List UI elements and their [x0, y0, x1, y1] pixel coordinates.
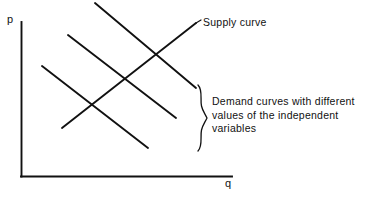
y-axis-label: p	[7, 13, 13, 25]
demand-curves-label: Demand curves with different values of t…	[212, 95, 355, 136]
x-axis-label: q	[225, 177, 231, 189]
demand-curves-label-line-1: Demand curves with different	[212, 95, 355, 109]
supply-curve-label: Supply curve	[203, 16, 267, 30]
demand-curve-line-2	[68, 35, 176, 118]
demand-curve-line-1	[95, 3, 196, 88]
brace-icon	[198, 85, 207, 151]
demand-curves-label-line-2: values of the independent	[212, 109, 355, 123]
supply-demand-figure: p q Supply curve Demand curves with diff…	[0, 0, 378, 199]
axes-group	[21, 22, 232, 177]
demand-curves-brace	[198, 85, 207, 151]
supply-curve-leader-line	[196, 20, 201, 23]
supply-curve-line	[62, 23, 196, 128]
demand-curves-label-line-3: variables	[212, 122, 355, 136]
demand-curve-line-3	[42, 66, 148, 148]
